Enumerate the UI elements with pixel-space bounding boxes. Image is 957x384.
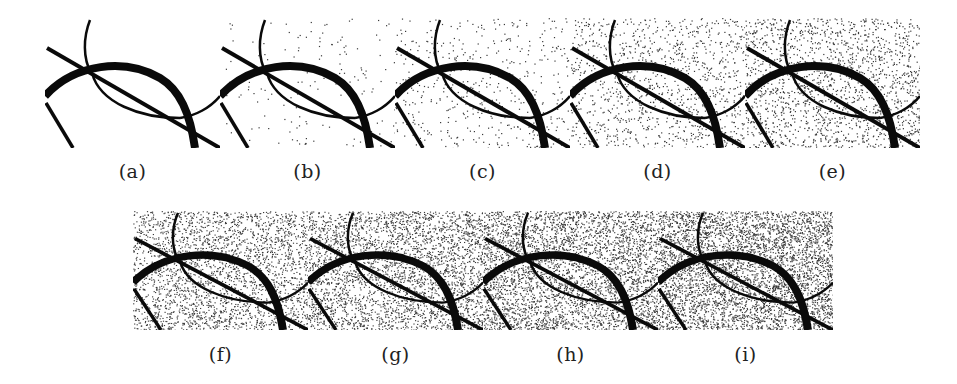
figure-row-bottom: (f) (g) (h) (i) <box>133 211 833 365</box>
noisy-image-b <box>220 18 395 148</box>
noisy-image-f <box>133 211 308 330</box>
caption-b: (b) <box>220 160 395 182</box>
figure-row-top: (a) (b) (c) (d) (e) <box>45 18 920 182</box>
subfigure-b: (b) <box>220 18 395 182</box>
subfigure-f: (f) <box>133 211 308 365</box>
subfigure-d: (d) <box>570 18 745 182</box>
noisy-image-d <box>570 18 745 148</box>
noisy-image-e <box>745 18 920 148</box>
caption-a: (a) <box>45 160 220 182</box>
caption-f: (f) <box>133 343 308 365</box>
noisy-image-c <box>395 18 570 148</box>
caption-c: (c) <box>395 160 570 182</box>
caption-h: (h) <box>483 343 658 365</box>
subfigure-i: (i) <box>658 211 833 365</box>
noisy-image-g <box>308 211 483 330</box>
noisy-image-i <box>658 211 833 330</box>
subfigure-g: (g) <box>308 211 483 365</box>
caption-e: (e) <box>745 160 920 182</box>
noisy-image-a <box>45 18 220 148</box>
subfigure-c: (c) <box>395 18 570 182</box>
caption-i: (i) <box>658 343 833 365</box>
subfigure-h: (h) <box>483 211 658 365</box>
caption-d: (d) <box>570 160 745 182</box>
subfigure-a: (a) <box>45 18 220 182</box>
noisy-image-h <box>483 211 658 330</box>
subfigure-e: (e) <box>745 18 920 182</box>
caption-g: (g) <box>308 343 483 365</box>
